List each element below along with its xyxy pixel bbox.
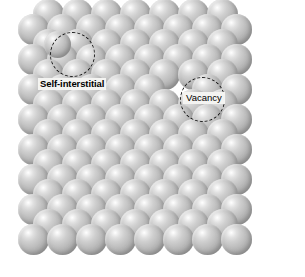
vacancy-label: Vacancy — [183, 92, 225, 104]
atom-sphere — [163, 224, 194, 255]
atom-sphere — [47, 224, 78, 255]
atom-sphere — [134, 224, 165, 255]
self-interstitial-marker-circle — [50, 32, 95, 77]
atom-sphere — [221, 224, 252, 255]
atom-sphere — [76, 224, 107, 255]
atom-sphere — [105, 224, 136, 255]
atom-sphere — [192, 224, 223, 255]
self-interstitial-label: Self-interstitial — [38, 78, 106, 90]
crystal-lattice-figure: Self-interstitial Vacancy — [0, 0, 305, 277]
atom-sphere — [18, 224, 49, 255]
